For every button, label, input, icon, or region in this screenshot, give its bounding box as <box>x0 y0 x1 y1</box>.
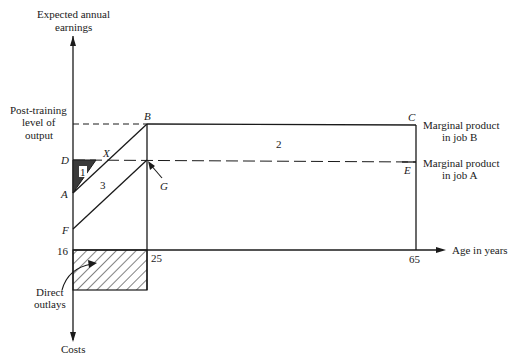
costs-label: Costs <box>61 343 85 355</box>
point-e: E <box>403 164 411 176</box>
point-f: F <box>61 224 69 236</box>
job-b-line <box>147 124 416 125</box>
tick-16: 16 <box>57 245 69 257</box>
y-axis-label-1: Expected annual <box>37 8 110 20</box>
point-g: G <box>160 180 168 192</box>
direct-outlays-box <box>73 250 147 290</box>
y-axis-down-arrow-icon <box>70 332 76 342</box>
tick-25: 25 <box>151 252 163 264</box>
line-a-b <box>73 124 147 193</box>
job-a-dashed <box>73 160 416 162</box>
point-d: D <box>60 154 69 166</box>
point-b: B <box>144 110 151 122</box>
post-training-label-1: Post-training <box>10 104 67 116</box>
job-a-label-2: in job A <box>442 169 478 181</box>
outlays-label-2: outlays <box>34 298 66 310</box>
area-2-label: 2 <box>276 138 282 150</box>
x-axis-label: Age in years <box>452 244 508 256</box>
area-1-label: 1 <box>80 166 86 178</box>
human-capital-diagram: 1 2 3 Expected annual earnings Age in ye… <box>0 0 518 359</box>
point-a: A <box>60 188 68 200</box>
tick-65: 65 <box>409 253 421 265</box>
post-training-label-2: level of <box>22 116 56 128</box>
y-axis-label-2: earnings <box>55 21 92 33</box>
x-axis-arrow-icon <box>436 247 446 253</box>
point-c: C <box>408 111 416 123</box>
point-x: X <box>102 147 111 159</box>
job-a-label-1: Marginal product <box>423 157 499 169</box>
job-b-label-2: in job B <box>442 131 477 143</box>
post-training-label-3: output <box>25 129 53 141</box>
area-3-label: 3 <box>100 179 106 191</box>
y-axis-up-arrow-icon <box>70 36 76 46</box>
outlays-label-1: Direct <box>36 286 63 298</box>
job-b-label-1: Marginal product <box>423 119 499 131</box>
